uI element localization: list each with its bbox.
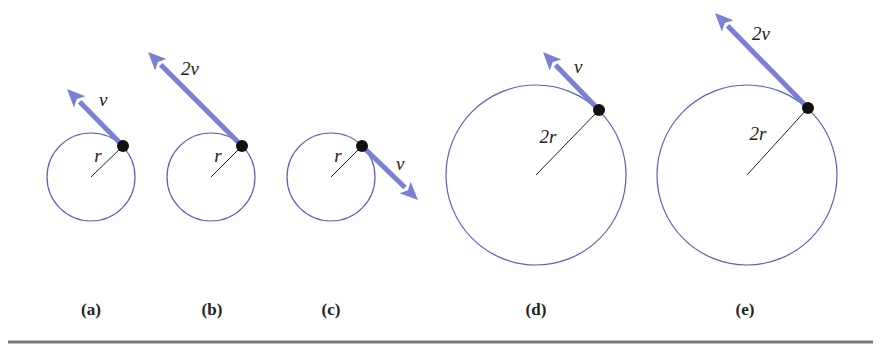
circular-motion-diagram: vr(a)2vr(b)vr(c)v2r(d)2v2r(e) [0, 0, 881, 352]
particle [117, 140, 129, 152]
radius-label: 2r [540, 126, 558, 147]
radius-label: r [94, 145, 102, 166]
radius-label: r [214, 145, 222, 166]
panel-caption: (d) [526, 300, 547, 319]
panel-b: 2vr(b) [148, 52, 255, 319]
velocity-label: v [99, 89, 108, 110]
particle [593, 104, 605, 116]
velocity-label: v [574, 56, 583, 77]
panel-caption: (c) [322, 300, 341, 319]
radius-label: r [334, 145, 342, 166]
panel-a: vr(a) [47, 89, 135, 319]
radius-label: 2r [750, 123, 768, 144]
particle [802, 102, 814, 114]
panel-caption: (e) [736, 300, 755, 319]
velocity-label: v [396, 153, 405, 174]
panel-c: vr(c) [287, 133, 418, 319]
particle [356, 140, 368, 152]
velocity-label: 2v [181, 58, 200, 79]
velocity-label: 2v [752, 23, 771, 44]
panel-caption: (a) [81, 300, 101, 319]
panel-d: v2r(d) [446, 52, 626, 319]
panel-e: 2v2r(e) [657, 13, 837, 319]
panel-caption: (b) [202, 300, 223, 319]
particle [236, 140, 248, 152]
